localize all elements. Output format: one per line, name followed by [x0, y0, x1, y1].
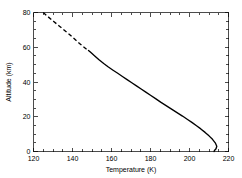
x-tick-label: 120 — [28, 155, 40, 162]
plot-canvas: 120140160180200220 020406080 Temperature… — [0, 0, 242, 178]
x-tick-label: 180 — [145, 155, 157, 162]
x-tick-label: 160 — [106, 155, 118, 162]
y-axis-label: Altitude (km) — [5, 62, 13, 101]
y-tick-label: 60 — [23, 44, 31, 51]
y-tick-label: 80 — [23, 9, 31, 16]
x-tick-label: 200 — [184, 155, 196, 162]
x-tick-label: 220 — [223, 155, 235, 162]
y-tick-label: 0 — [27, 148, 31, 155]
x-axis-label: Temperature (K) — [106, 166, 157, 174]
y-tick-label: 40 — [23, 79, 31, 86]
temperature-profile-chart: 120140160180200220 020406080 Temperature… — [0, 0, 242, 178]
x-tick-label: 140 — [67, 155, 79, 162]
y-tick-label: 20 — [23, 113, 31, 120]
